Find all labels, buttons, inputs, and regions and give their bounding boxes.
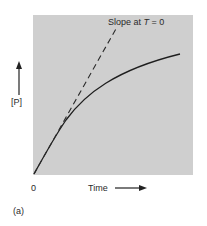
x-origin-label: 0 [31, 183, 36, 193]
y-axis-arrowhead-icon [16, 61, 22, 69]
y-axis-label: [P] [11, 97, 22, 107]
slope-annotation: Slope at T = 0 [108, 17, 164, 27]
plot-area [33, 15, 193, 175]
x-axis-arrowhead-icon [139, 185, 147, 191]
panel-label: (a) [13, 206, 24, 216]
x-axis-label: Time [88, 183, 108, 193]
